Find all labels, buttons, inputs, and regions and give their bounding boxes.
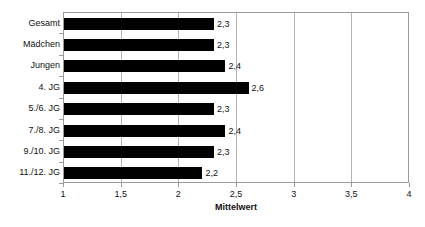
x-axis-tick-label-1: 1 <box>60 189 65 199</box>
bar-value-label: 2,3 <box>217 40 230 50</box>
x-axis-tick-label-5: 3 <box>291 189 296 199</box>
bar-value-label: 2,3 <box>217 104 230 114</box>
bar: 2,3 <box>64 103 214 115</box>
x-axis-tick-mark <box>121 183 122 187</box>
y-axis-label-2: Mädchen <box>23 33 60 54</box>
x-axis-tick-label-2: 1,5 <box>114 189 127 199</box>
y-axis-label-3: Jungen <box>30 55 60 76</box>
y-axis-label-8: 11./12. JG <box>19 162 60 183</box>
x-axis-tick-mark <box>409 183 410 187</box>
bar-row: 2,3 <box>64 13 408 34</box>
bar-row: 2,4 <box>64 56 408 77</box>
bar: 2,4 <box>64 60 225 72</box>
bar: 2,2 <box>64 167 202 179</box>
bar-value-label: 2,3 <box>217 19 230 29</box>
x-axis-tick-mark <box>63 183 64 187</box>
x-axis-tick-label-7: 4 <box>406 189 411 199</box>
y-axis-label-1: Gesamt <box>28 12 60 33</box>
bar-value-label: 2,6 <box>252 83 265 93</box>
y-axis-tick <box>59 119 63 120</box>
x-axis-title: Mittelwert <box>63 202 409 213</box>
bar: 2,3 <box>64 18 214 30</box>
y-axis-tick <box>59 33 63 34</box>
y-axis-tick <box>59 162 63 163</box>
x-axis-tick-mark <box>294 183 295 187</box>
x-axis-tick-mark <box>236 183 237 187</box>
y-axis-label-7: 9./10. JG <box>23 140 60 161</box>
y-axis-tick <box>59 183 63 184</box>
y-axis-tick <box>59 55 63 56</box>
y-axis-tick <box>59 98 63 99</box>
x-axis-tick-label-6: 3,5 <box>345 189 358 199</box>
bar: 2,3 <box>64 146 214 158</box>
x-axis-tick-label-4: 2,5 <box>230 189 243 199</box>
bar-row: 2,3 <box>64 141 408 162</box>
y-axis-label-6: 7./8. JG <box>28 119 60 140</box>
bar: 2,4 <box>64 125 225 137</box>
bar-value-label: 2,3 <box>217 147 230 157</box>
x-axis-tick-mark <box>351 183 352 187</box>
bar: 2,6 <box>64 82 249 94</box>
bar-value-label: 2,4 <box>228 126 241 136</box>
bar-value-label: 2,2 <box>205 168 218 178</box>
x-axis-tick-mark <box>178 183 179 187</box>
bar-value-label: 2,4 <box>228 61 241 71</box>
bar: 2,3 <box>64 39 214 51</box>
y-axis-tick <box>59 76 63 77</box>
bar-row: 2,4 <box>64 120 408 141</box>
bar-chart-figure: GesamtMädchenJungen4. JG5./6. JG7./8. JG… <box>0 0 425 227</box>
y-axis-label-4: 4. JG <box>38 76 60 97</box>
bar-row: 2,3 <box>64 34 408 55</box>
bar-row: 2,2 <box>64 163 408 184</box>
y-axis-category-labels: GesamtMädchenJungen4. JG5./6. JG7./8. JG… <box>0 12 60 183</box>
x-axis-tick-label-3: 2 <box>176 189 181 199</box>
bar-row: 2,6 <box>64 77 408 98</box>
y-axis-label-5: 5./6. JG <box>28 98 60 119</box>
plot-area: 2,32,32,42,62,32,42,32,2 <box>63 12 409 183</box>
y-axis-tick <box>59 140 63 141</box>
bar-row: 2,3 <box>64 99 408 120</box>
